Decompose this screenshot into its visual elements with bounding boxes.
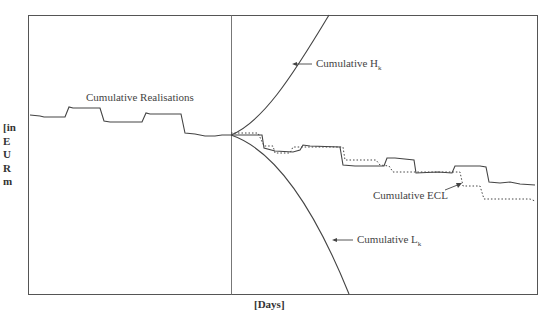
hk-label: Cumulative Hk — [316, 57, 382, 72]
realisations-label: Cumulative Realisations — [86, 91, 194, 103]
lk-arrowhead-icon — [332, 238, 337, 242]
ecl-label: Cumulative ECL — [373, 189, 448, 201]
chart-canvas — [0, 0, 551, 323]
x-axis-label: [Days] — [254, 298, 285, 310]
plot-frame — [29, 16, 538, 295]
lk-curve — [231, 135, 349, 294]
hk-curve — [231, 15, 329, 135]
y-axis-label: [in E U R m — [3, 121, 16, 189]
hk-arrowhead-icon — [292, 62, 297, 66]
realised-projection-line — [231, 135, 535, 185]
realisations-history-line — [30, 107, 231, 136]
lk-label: Cumulative Lk — [357, 233, 421, 248]
